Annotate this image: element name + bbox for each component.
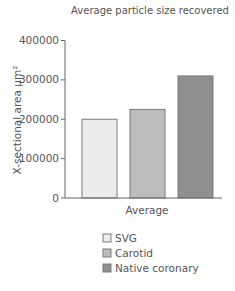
legend-swatch [103, 234, 111, 242]
bar-svg [82, 119, 117, 198]
y-tick-label: 200000 [19, 113, 59, 125]
bars [82, 76, 213, 198]
y-tick-label: 400000 [19, 34, 59, 46]
bar-chart: Average particle size recovered X-sectio… [0, 0, 235, 291]
legend-label: Carotid [115, 247, 153, 259]
chart-title: Average particle size recovered [71, 5, 229, 16]
y-tick-label: 100000 [19, 152, 59, 164]
legend: SVGCarotidNative coronary [103, 232, 199, 274]
y-axis: 0100000200000300000400000 [19, 34, 65, 204]
x-category-label: Average [125, 204, 168, 216]
legend-label: SVG [115, 232, 137, 244]
legend-label: Native coronary [115, 262, 199, 274]
legend-swatch [103, 264, 111, 272]
bar-native-coronary [178, 76, 213, 198]
bar-carotid [130, 109, 165, 198]
y-tick-label: 300000 [19, 73, 59, 85]
y-tick-label: 0 [52, 192, 59, 204]
legend-swatch [103, 249, 111, 257]
